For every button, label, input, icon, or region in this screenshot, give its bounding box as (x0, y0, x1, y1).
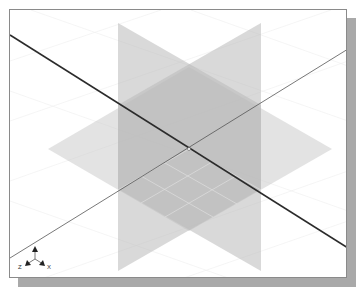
z-axis-arrow-icon (25, 260, 31, 266)
z-axis-label: Z (18, 264, 22, 270)
x-axis-arrow-icon (39, 260, 45, 266)
scene-canvas[interactable]: Z X (10, 10, 347, 278)
graphics-viewport[interactable]: Z X (9, 9, 347, 278)
origin-marker (188, 148, 191, 151)
x-axis-label: X (47, 264, 51, 270)
y-axis-arrow-icon (32, 246, 38, 252)
